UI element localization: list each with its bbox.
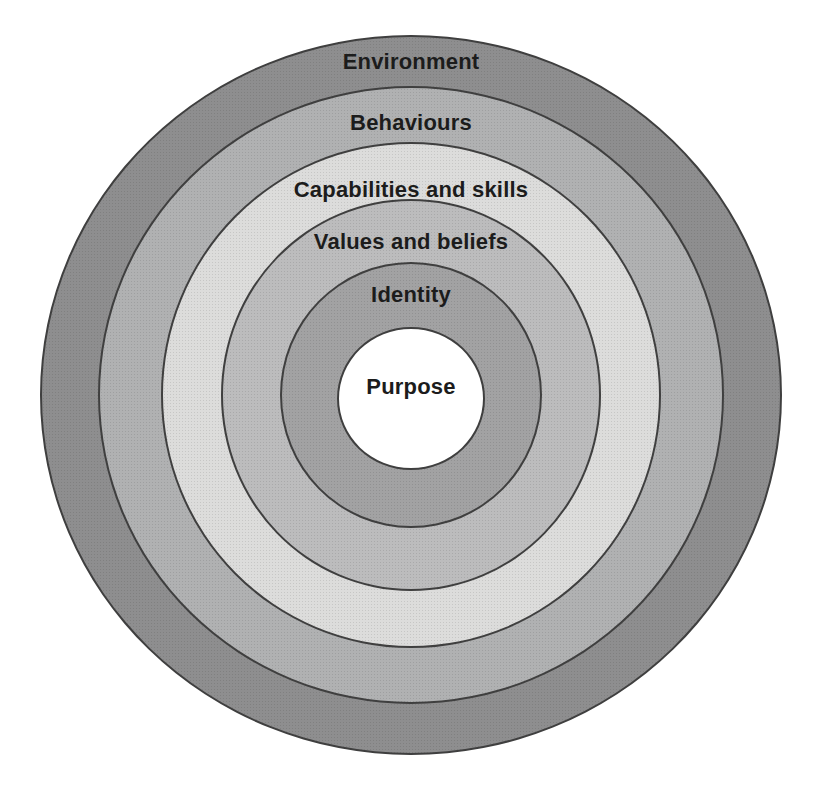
ring-purpose	[337, 327, 485, 470]
concentric-levels-diagram: Environment Behaviours Capabilities and …	[0, 0, 822, 796]
